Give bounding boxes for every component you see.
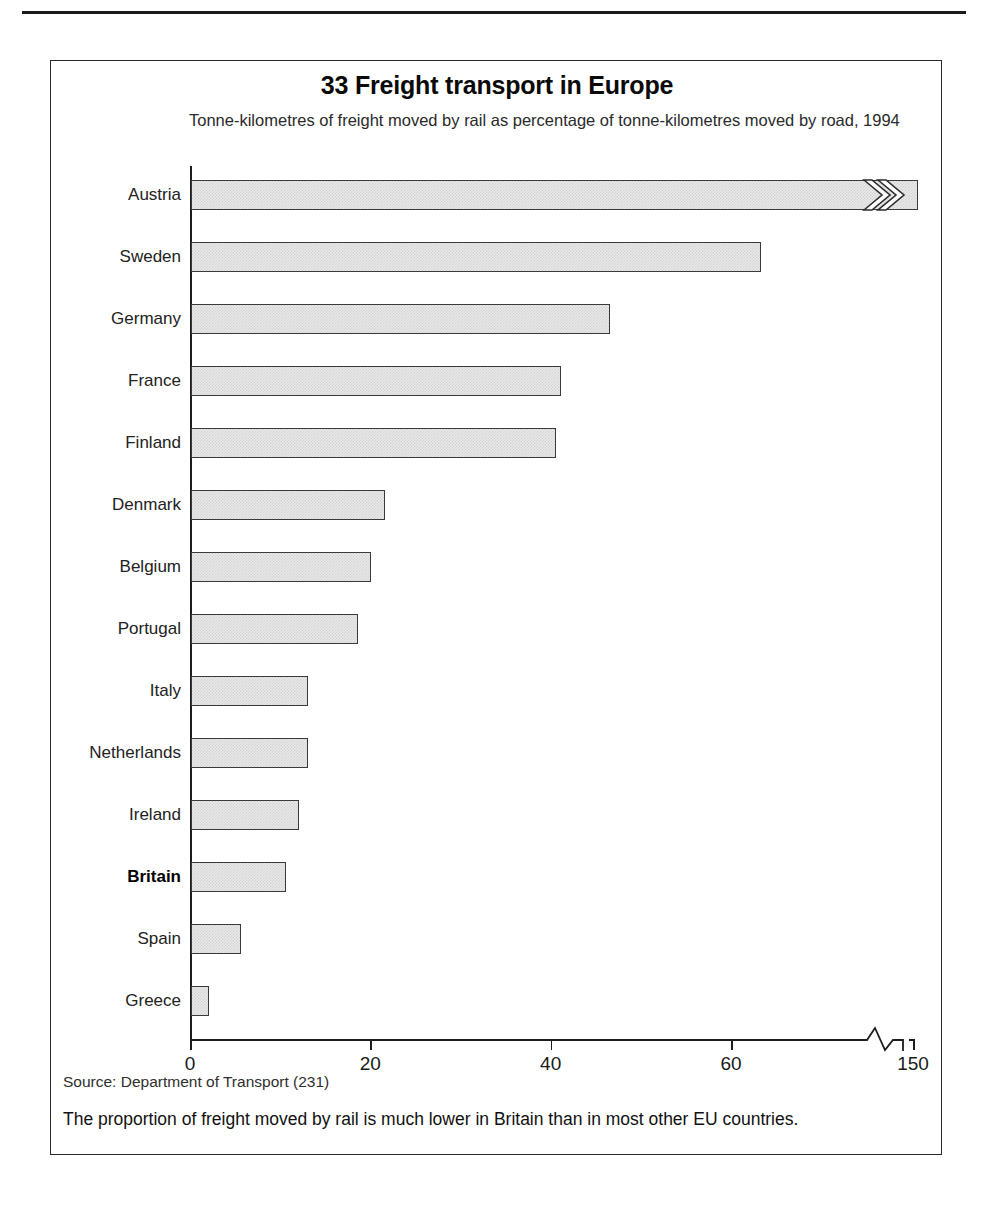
bar-ireland (191, 800, 299, 830)
bar-row: Spain (51, 924, 943, 986)
category-label-italy: Italy (51, 676, 181, 706)
x-tick-0 (190, 1039, 192, 1050)
bar-italy (191, 676, 308, 706)
chart-plot-area: AustriaSwedenGermanyFranceFinlandDenmark… (51, 166, 943, 1046)
figure-caption: The proportion of freight moved by rail … (63, 1109, 931, 1130)
x-tick-20 (370, 1039, 372, 1050)
bar-sweden (191, 242, 761, 272)
x-tick-label-60: 60 (720, 1053, 741, 1075)
x-tick-label-0: 0 (185, 1053, 196, 1075)
bar-row: Netherlands (51, 738, 943, 800)
bar-britain (191, 862, 286, 892)
bar-row: Portugal (51, 614, 943, 676)
category-label-france: France (51, 366, 181, 396)
x-tick-150 (913, 1039, 915, 1050)
bar-row: Italy (51, 676, 943, 738)
bar-finland (191, 428, 556, 458)
bar-row: Austria (51, 180, 943, 242)
category-label-netherlands: Netherlands (51, 738, 181, 768)
bar-germany (191, 304, 610, 334)
page-title: 33 Freight transport in Europe (51, 71, 943, 100)
bar-row: Denmark (51, 490, 943, 552)
x-tick-40 (551, 1039, 553, 1050)
bar-austria (191, 180, 918, 210)
category-label-spain: Spain (51, 924, 181, 954)
page-top-rule (22, 11, 966, 14)
bar-spain (191, 924, 241, 954)
bar-row: Britain (51, 862, 943, 924)
figure-frame: 33 Freight transport in Europe Tonne-kil… (50, 60, 942, 1155)
figure-subtitle: Tonne-kilometres of freight moved by rai… (189, 109, 929, 132)
category-label-greece: Greece (51, 986, 181, 1016)
category-label-sweden: Sweden (51, 242, 181, 272)
x-tick-60 (731, 1039, 733, 1050)
bar-portugal (191, 614, 358, 644)
page-root: 33 Freight transport in Europe Tonne-kil… (0, 0, 994, 1208)
bar-row: Germany (51, 304, 943, 366)
bar-greece (191, 986, 209, 1016)
bar-row: France (51, 366, 943, 428)
bar-belgium (191, 552, 371, 582)
bar-row: Ireland (51, 800, 943, 862)
category-label-austria: Austria (51, 180, 181, 210)
category-label-belgium: Belgium (51, 552, 181, 582)
x-tick-label-150: 150 (897, 1053, 929, 1075)
x-tick-label-40: 40 (540, 1053, 561, 1075)
bar-france (191, 366, 561, 396)
category-label-denmark: Denmark (51, 490, 181, 520)
category-label-portugal: Portugal (51, 614, 181, 644)
category-label-britain: Britain (51, 862, 181, 892)
category-label-germany: Germany (51, 304, 181, 334)
bar-netherlands (191, 738, 308, 768)
bar-row: Belgium (51, 552, 943, 614)
category-label-finland: Finland (51, 428, 181, 458)
category-label-ireland: Ireland (51, 800, 181, 830)
bar-row: Sweden (51, 242, 943, 304)
bar-denmark (191, 490, 385, 520)
source-note: Source: Department of Transport (231) (63, 1073, 923, 1091)
x-tick-label-20: 20 (360, 1053, 381, 1075)
bar-row: Finland (51, 428, 943, 490)
